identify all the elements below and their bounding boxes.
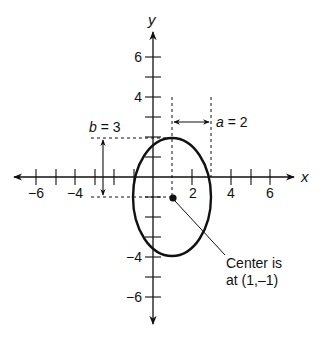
- y-tick-label: −4: [126, 249, 142, 265]
- ellipse-diagram: y x −6 −4 2 4 6 6 4 −4 −6 a = 2 b = 3 Ce…: [0, 0, 324, 337]
- center-point: [169, 194, 176, 201]
- x-tick-label: −6: [28, 185, 44, 201]
- b-label-value: = 3: [97, 119, 121, 135]
- y-axis-label: y: [147, 11, 157, 28]
- a-label: a = 2: [216, 114, 248, 130]
- y-tick-label: 4: [134, 89, 142, 105]
- x-tick-label: 2: [189, 185, 197, 201]
- center-label-line2: at (1,–1): [226, 272, 278, 288]
- x-axis-label: x: [300, 168, 309, 185]
- a-label-value: = 2: [224, 114, 248, 130]
- y-tick-label: 6: [134, 49, 142, 65]
- center-leader-line: [175, 201, 225, 255]
- center-label-line1: Center is: [226, 255, 282, 271]
- b-label: b = 3: [89, 119, 121, 135]
- x-tick-label: 6: [266, 185, 274, 201]
- coordinate-plane: y x −6 −4 2 4 6 6 4 −4 −6 a = 2 b = 3 Ce…: [0, 0, 324, 337]
- y-tick-label: −6: [126, 289, 142, 305]
- x-tick-label: 4: [227, 185, 235, 201]
- x-tick-label: −4: [67, 185, 83, 201]
